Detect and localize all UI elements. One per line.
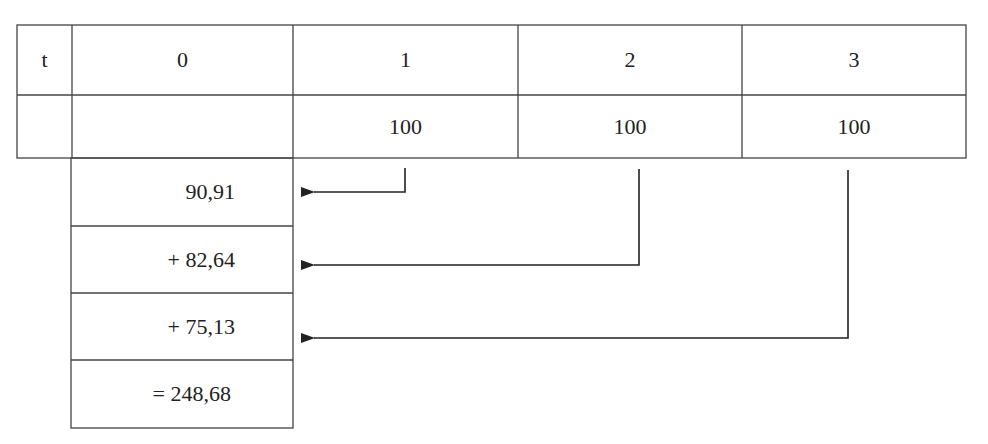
cashflow-cell-0	[72, 95, 293, 158]
header-cell-2: 2	[518, 25, 742, 95]
header-cell-3: 3	[742, 25, 966, 95]
pv-cell-period-1: 90,91	[71, 158, 293, 226]
arrow-period-3	[314, 170, 848, 338]
pv-total-cell: = 248,68	[71, 360, 293, 428]
cashflow-cell-1: 100	[293, 95, 518, 158]
cashflow-label-cell	[17, 95, 72, 158]
arrow-period-1	[314, 168, 405, 192]
cashflow-cell-2: 100	[518, 95, 742, 158]
header-cell-1: 1	[293, 25, 518, 95]
cashflow-cell-3: 100	[742, 95, 966, 158]
discount-arrows	[314, 168, 848, 338]
header-cell-0: 0	[72, 25, 293, 95]
pv-cell-period-2: + 82,64	[71, 226, 293, 293]
header-cell-t: t	[17, 25, 72, 95]
arrow-period-2	[314, 169, 639, 265]
pv-cell-period-3: + 75,13	[71, 293, 293, 360]
